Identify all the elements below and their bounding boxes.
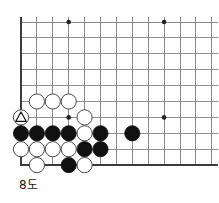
stone-white-c3r5[interactable]	[61, 94, 76, 109]
stone-white-c1r9[interactable]	[29, 158, 44, 173]
white-stone	[61, 94, 76, 109]
stone-white-c2r8[interactable]	[45, 142, 60, 157]
black-stone	[45, 126, 60, 141]
black-stone	[77, 142, 92, 157]
figure-caption: 8도	[19, 178, 38, 192]
black-stone	[61, 158, 76, 173]
stone-white-c1r5[interactable]	[29, 94, 44, 109]
black-stone	[61, 126, 76, 141]
white-stone	[45, 142, 60, 157]
star-point-0	[66, 20, 71, 25]
go-board-canvas	[0, 0, 219, 203]
star-point-3	[162, 115, 167, 120]
stone-black-c0r7[interactable]	[13, 126, 28, 141]
white-stone	[45, 94, 60, 109]
stone-black-c2r7[interactable]	[45, 126, 60, 141]
stone-white-c0r6[interactable]	[13, 110, 28, 125]
stone-white-c1r8[interactable]	[29, 142, 44, 157]
white-stone	[29, 158, 44, 173]
black-stone	[93, 126, 108, 141]
white-stone	[61, 142, 76, 157]
black-stone	[93, 142, 108, 157]
black-stone	[13, 126, 28, 141]
black-stone	[125, 126, 140, 141]
stone-white-c4r9[interactable]	[77, 158, 92, 173]
stone-black-c3r7[interactable]	[61, 126, 76, 141]
black-stone	[29, 126, 44, 141]
go-board-figure: 8도	[0, 0, 219, 203]
stone-black-c4r8[interactable]	[77, 142, 92, 157]
star-point-1	[162, 20, 167, 25]
white-stone	[13, 142, 28, 157]
go-diagram-root: 8도	[0, 0, 219, 203]
stone-white-c0r8[interactable]	[13, 142, 28, 157]
stone-black-c3r9[interactable]	[61, 158, 76, 173]
stone-white-c4r6[interactable]	[77, 110, 92, 125]
stone-white-c2r5[interactable]	[45, 94, 60, 109]
star-point-2	[66, 115, 71, 120]
stone-black-c7r7[interactable]	[125, 126, 140, 141]
white-stone	[77, 158, 92, 173]
stone-white-c4r7[interactable]	[77, 126, 92, 141]
white-stone	[77, 126, 92, 141]
white-stone	[77, 110, 92, 125]
stone-black-c5r7[interactable]	[93, 126, 108, 141]
white-stone	[29, 94, 44, 109]
stone-white-c3r8[interactable]	[61, 142, 76, 157]
stone-black-c5r8[interactable]	[93, 142, 108, 157]
stone-black-c1r7[interactable]	[29, 126, 44, 141]
white-stone	[29, 142, 44, 157]
